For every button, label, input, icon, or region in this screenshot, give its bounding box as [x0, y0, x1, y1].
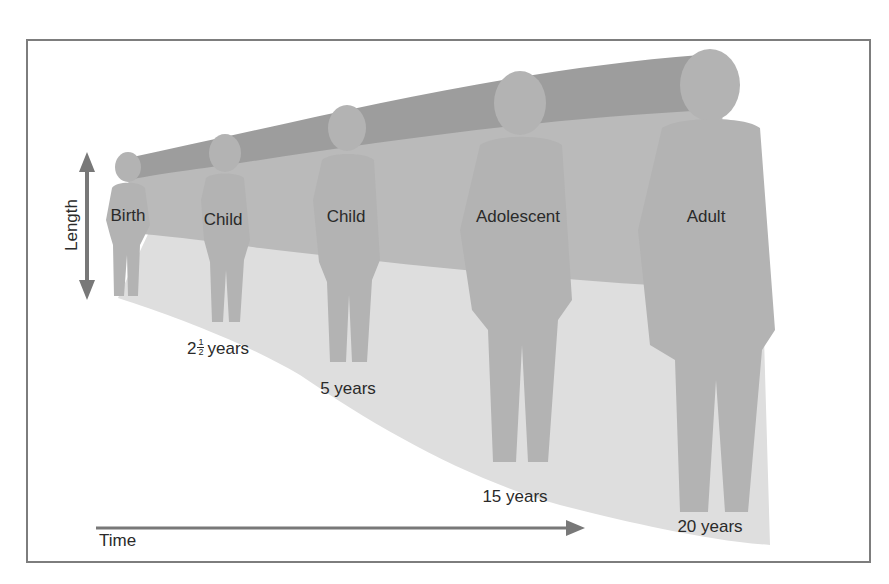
time-axis-label: Time [99, 532, 136, 549]
stage-label-child-2: Child [327, 208, 366, 225]
age-label-2-5-years: 212years [187, 340, 249, 359]
stage-label-child-1: Child [204, 211, 243, 228]
age-label-5-years: 5 years [320, 380, 376, 397]
age-label-20-years: 20 years [677, 518, 742, 535]
diagram-frame [26, 39, 871, 563]
stage-label-birth: Birth [111, 207, 146, 224]
age-whole: 2 [187, 339, 196, 358]
half-fraction: 12 [197, 338, 204, 356]
stage-label-adolescent: Adolescent [476, 208, 560, 225]
stage-label-adult: Adult [687, 208, 726, 225]
age-unit: years [207, 339, 249, 358]
age-label-15-years: 15 years [482, 488, 547, 505]
length-axis-label: Length [62, 199, 82, 251]
